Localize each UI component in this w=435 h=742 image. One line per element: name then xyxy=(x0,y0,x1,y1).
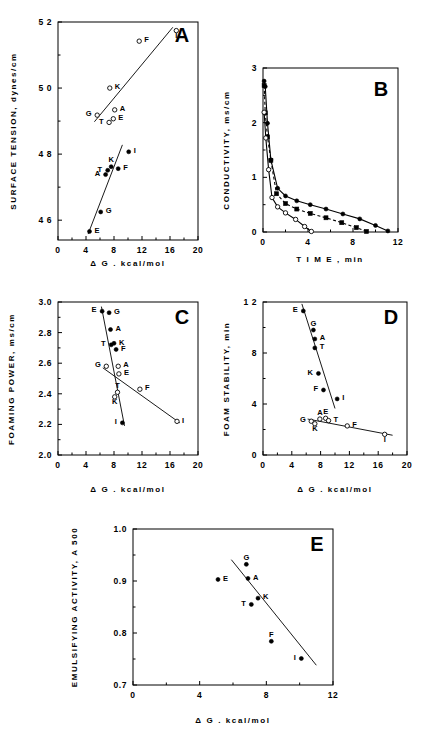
data-point-open xyxy=(266,167,270,171)
data-point-filled xyxy=(216,577,220,581)
data-point-filled xyxy=(299,656,303,660)
panel-letter: D xyxy=(384,306,398,328)
data-point-filled-square xyxy=(340,221,344,225)
data-point-open xyxy=(302,224,306,228)
data-point-filled xyxy=(106,168,110,172)
point-label: T xyxy=(98,165,103,174)
x-tick-label: 0 xyxy=(55,245,60,255)
data-point-open xyxy=(275,205,279,209)
x-tick-label: 0 xyxy=(260,460,265,470)
y-tick-label: 0.7 xyxy=(113,680,127,690)
y-tick-label: 5 2 xyxy=(38,17,52,27)
data-point-filled xyxy=(313,337,317,341)
y-tick-label: 2.8 xyxy=(38,328,52,338)
point-label: E xyxy=(293,305,298,314)
data-point-open xyxy=(283,211,287,215)
point-label: I xyxy=(182,416,184,425)
y-tick-label: 2 xyxy=(252,118,257,128)
panel-e-plot: 048120.70.80.91.0EMULSIFYING ACTIVITY, A… xyxy=(55,515,375,740)
point-label: K xyxy=(108,155,114,164)
point-label: T xyxy=(115,381,120,390)
point-label: G xyxy=(114,307,120,316)
data-point-open xyxy=(113,108,117,112)
series-filled-symbols: EGATKFI xyxy=(293,304,344,409)
x-tick-label: 20 xyxy=(193,245,204,255)
x-tick-label: 12 xyxy=(328,690,339,700)
x-tick-label: 8 xyxy=(111,245,116,255)
y-tick-label: 3.0 xyxy=(38,297,52,307)
x-tick-label: 0 xyxy=(55,460,60,470)
point-label: F xyxy=(352,420,357,429)
data-point-filled-square xyxy=(308,211,312,215)
point-label: G xyxy=(106,206,112,215)
point-label: G xyxy=(300,415,306,424)
y-tick-label: 4 6 xyxy=(38,215,52,225)
data-point-filled xyxy=(109,165,113,169)
point-label: I xyxy=(294,653,296,662)
point-label: F xyxy=(123,163,128,172)
series-open-symbols: GKAETFI xyxy=(300,407,393,444)
panel-d: 0481216200481 2FOAM STABILITY, minΔ G . … xyxy=(215,280,435,515)
x-tick-label: 20 xyxy=(402,460,413,470)
point-label: F xyxy=(269,630,274,639)
data-point-filled xyxy=(120,421,124,425)
x-tick-label: 12 xyxy=(137,460,148,470)
x-axis-title: T I M E , min xyxy=(296,255,363,264)
point-label: E xyxy=(223,574,228,583)
data-point-open xyxy=(270,195,274,199)
data-point-filled xyxy=(246,576,250,580)
y-tick-label: 1 xyxy=(252,172,257,182)
x-tick-label: 4 xyxy=(197,690,202,700)
point-label: K xyxy=(115,82,121,91)
x-tick-label: 4 xyxy=(305,237,310,247)
data-point-filled xyxy=(313,346,317,350)
point-label: F xyxy=(313,384,318,393)
x-tick-label: 16 xyxy=(373,460,384,470)
y-tick-label: 3 xyxy=(252,63,257,73)
data-point-filled xyxy=(374,223,378,227)
x-axis-title: Δ G . kcal/mol xyxy=(195,716,270,725)
point-label: E xyxy=(95,226,100,235)
x-tick-label: 4 xyxy=(289,460,294,470)
y-tick-label: 5 0 xyxy=(38,83,52,93)
point-label: E xyxy=(124,368,129,377)
y-tick-label: 2.4 xyxy=(38,389,52,399)
series-open-circles xyxy=(262,110,314,234)
point-label: F xyxy=(145,383,150,392)
x-tick-label: 20 xyxy=(193,460,204,470)
regression-line xyxy=(94,27,172,121)
data-point-filled xyxy=(256,596,260,600)
data-point-open xyxy=(138,387,142,391)
series-filled-squares xyxy=(262,83,368,233)
data-point-filled-square xyxy=(269,158,273,162)
x-axis-title: Δ G . kcal/mol xyxy=(90,259,165,268)
panel-letter: E xyxy=(310,533,323,555)
data-point-filled xyxy=(114,347,118,351)
data-point-filled-square xyxy=(275,192,279,196)
data-point-filled xyxy=(321,388,325,392)
data-point-filled xyxy=(301,309,305,313)
point-label: G xyxy=(95,360,101,369)
data-point-open xyxy=(318,417,322,421)
data-point-filled xyxy=(316,371,320,375)
data-point-filled xyxy=(116,167,120,171)
data-point-filled xyxy=(107,311,111,315)
point-label: A xyxy=(320,333,326,342)
y-tick-label: 4 xyxy=(252,399,257,409)
point-label: G xyxy=(243,553,249,562)
point-label: E xyxy=(323,407,328,416)
plot-frame xyxy=(58,22,198,240)
data-point-filled xyxy=(262,79,266,83)
point-label: T xyxy=(99,117,104,126)
x-tick-label: 12 xyxy=(137,245,148,255)
data-point-filled xyxy=(341,212,345,216)
figure-canvas: 0481216204 64 85 05 2SURFACE TENSION, dy… xyxy=(0,0,435,742)
point-label: A xyxy=(120,104,126,113)
panel-a: 0481216204 64 85 05 2SURFACE TENSION, dy… xyxy=(0,0,220,270)
data-point-filled xyxy=(100,309,104,313)
y-tick-label: 4 8 xyxy=(38,149,52,159)
data-point-open xyxy=(264,136,268,140)
data-point-filled-square xyxy=(324,216,328,220)
x-tick-label: 16 xyxy=(165,460,176,470)
data-point-filled-square xyxy=(295,207,299,211)
